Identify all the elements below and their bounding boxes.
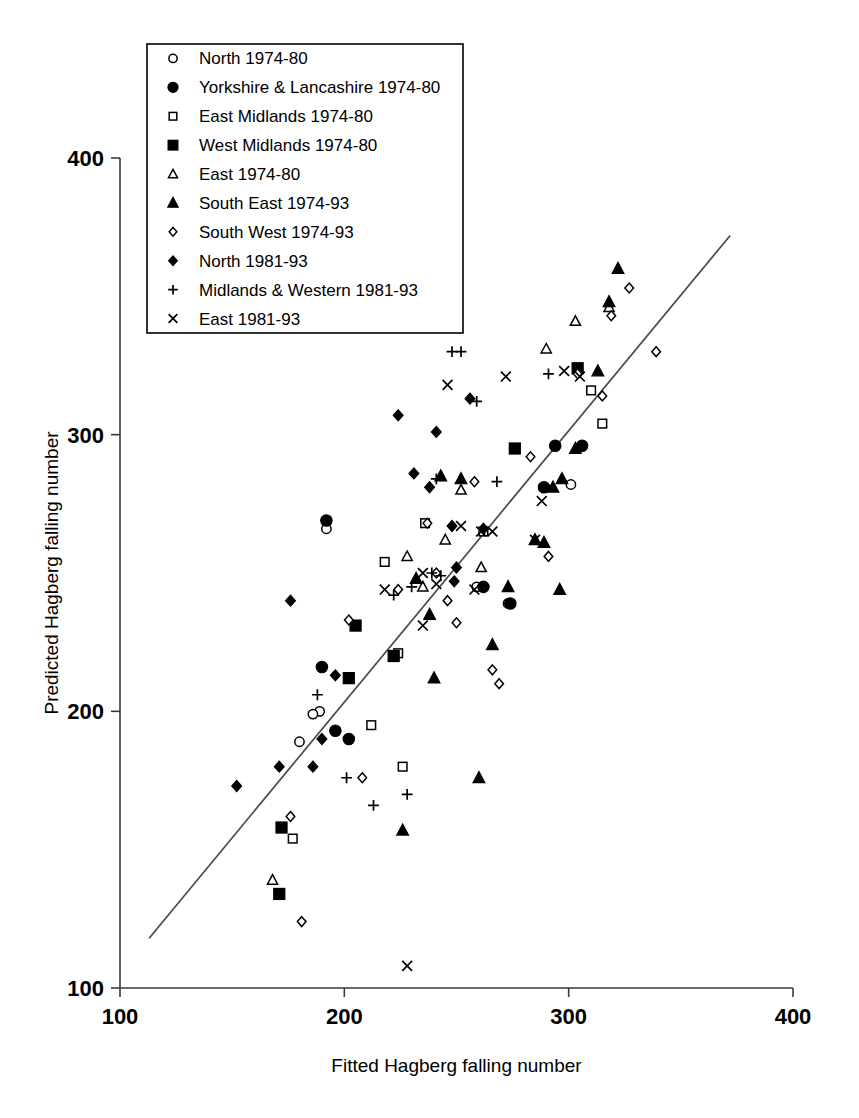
point-6-10 (526, 452, 535, 462)
legend: North 1974-80Yorkshire & Lancashire 1974… (147, 44, 463, 333)
point-2-3 (288, 834, 297, 843)
point-3-2 (388, 650, 399, 661)
legend-marker-open-square (169, 112, 177, 120)
point-6-18 (394, 585, 403, 595)
point-6-15 (625, 283, 634, 293)
point-6-2 (297, 917, 306, 927)
series-6 (286, 283, 660, 926)
point-1-6 (550, 440, 561, 451)
point-5-1 (455, 473, 467, 484)
series-2 (288, 386, 606, 843)
point-9-0 (380, 585, 390, 595)
point-3-3 (276, 822, 287, 833)
point-2-8 (398, 762, 407, 771)
point-2-2 (367, 721, 376, 730)
legend-item-label: East 1974-80 (199, 165, 300, 184)
point-7-9 (449, 576, 459, 587)
series-0 (295, 480, 576, 747)
point-1-3 (343, 733, 354, 744)
legend-item-label: East Midlands 1974-80 (199, 107, 373, 126)
x-tick-label-300: 300 (550, 1004, 587, 1029)
x-tick-label-400: 400 (775, 1004, 812, 1029)
point-8-1 (341, 772, 352, 783)
point-6-11 (544, 551, 553, 561)
legend-item-label: Yorkshire & Lancashire 1974-80 (199, 78, 440, 97)
point-5-17 (554, 583, 566, 594)
point-4-6 (570, 316, 580, 325)
point-6-7 (470, 477, 479, 487)
data-points-group (232, 262, 661, 970)
point-0-5 (566, 480, 575, 489)
point-7-1 (274, 761, 284, 772)
point-8-9 (456, 346, 467, 357)
point-1-0 (321, 515, 332, 526)
point-1-1 (316, 661, 327, 672)
point-4-2 (440, 534, 450, 543)
y-tick-label-400: 400 (67, 146, 104, 171)
point-7-3 (308, 761, 318, 772)
point-6-5 (452, 618, 461, 628)
legend-item-1[interactable]: Yorkshire & Lancashire 1974-80 (168, 78, 440, 97)
legend-item-8[interactable]: Midlands & Western 1981-93 (168, 281, 418, 300)
point-7-0 (232, 781, 242, 792)
legend-marker-open-circle (169, 54, 177, 62)
point-5-6 (502, 581, 514, 592)
point-8-0 (312, 689, 323, 700)
legend-marker-filled-circle (168, 82, 178, 92)
point-2-7 (598, 419, 607, 428)
point-7-11 (465, 393, 475, 404)
point-5-10 (556, 473, 568, 484)
y-tick-label-200: 200 (67, 699, 104, 724)
point-9-14 (418, 568, 428, 578)
point-9-12 (559, 366, 569, 376)
legend-item-3[interactable]: West Midlands 1974-80 (168, 136, 377, 155)
point-5-11 (592, 365, 604, 376)
point-4-8 (476, 562, 486, 571)
point-9-9 (501, 372, 511, 382)
point-4-4 (456, 485, 466, 494)
point-8-12 (543, 368, 554, 379)
series-7 (232, 393, 489, 791)
point-5-5 (487, 639, 499, 650)
series-3 (274, 363, 583, 900)
point-9-8 (487, 527, 497, 537)
legend-item-2[interactable]: East Midlands 1974-80 (169, 107, 373, 126)
point-4-3 (267, 875, 277, 884)
point-7-12 (447, 520, 457, 531)
point-5-16 (424, 608, 436, 619)
point-9-11 (537, 496, 547, 506)
point-7-6 (409, 468, 419, 479)
point-7-4 (317, 733, 327, 744)
legend-item-label: South West 1974-93 (199, 223, 354, 242)
point-3-1 (343, 673, 354, 684)
point-2-6 (587, 386, 596, 395)
point-3-5 (509, 443, 520, 454)
point-6-14 (607, 311, 616, 321)
point-6-16 (652, 347, 661, 357)
point-9-4 (443, 380, 453, 390)
point-4-5 (541, 344, 551, 353)
x-axis-title: Fitted Hagberg falling number (331, 1055, 582, 1076)
point-7-7 (425, 482, 435, 493)
point-0-3 (295, 737, 304, 746)
point-7-5 (393, 410, 403, 421)
point-6-8 (488, 665, 497, 675)
legend-item-label: Midlands & Western 1981-93 (199, 281, 418, 300)
point-3-4 (274, 888, 285, 899)
scatter-plot-figure: 100200300400100200300400 North 1974-80Yo… (0, 0, 859, 1118)
point-5-4 (473, 771, 485, 782)
legend-item-label: North 1981-93 (199, 252, 308, 271)
y-axis-title: Predicted Hagberg falling number (41, 431, 62, 715)
legend-marker-filled-square (168, 140, 178, 150)
legend-item-label: North 1974-80 (199, 49, 308, 68)
series-1 (316, 440, 588, 745)
point-9-1 (402, 961, 412, 971)
plot-canvas: 100200300400100200300400 North 1974-80Yo… (0, 0, 859, 1118)
axis-titles-group: Fitted Hagberg falling numberPredicted H… (41, 431, 582, 1076)
point-7-8 (431, 426, 441, 437)
series-5 (397, 262, 624, 835)
point-1-4 (505, 598, 516, 609)
point-0-2 (308, 709, 317, 718)
point-7-13 (330, 670, 340, 681)
point-8-2 (368, 800, 379, 811)
